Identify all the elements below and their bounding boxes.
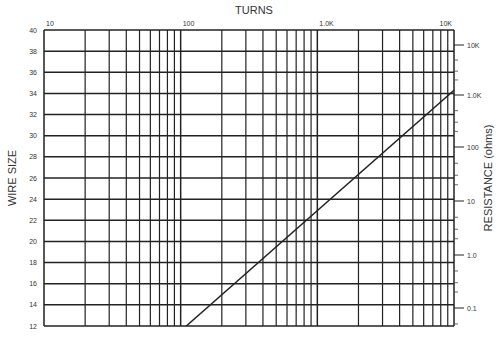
y-tick-label: 28 xyxy=(29,153,37,160)
y-tick-label: 22 xyxy=(29,217,37,224)
y-tick-label: 12 xyxy=(29,323,37,330)
x-tick-labels: 101001.0K10K xyxy=(46,20,452,27)
y2-tick-label: 0.1 xyxy=(467,305,477,312)
right-axis-title: RESISTANCE (ohms) xyxy=(482,125,494,232)
top-axis-title: TURNS xyxy=(235,4,273,16)
grid xyxy=(44,30,454,326)
y-tick-label: 26 xyxy=(29,175,37,182)
y-tick-label: 16 xyxy=(29,280,37,287)
x-tick-label: 10K xyxy=(440,20,453,27)
chart-canvas: TURNS WIRE SIZE RESISTANCE (ohms) 101001… xyxy=(0,0,504,341)
y-tick-label: 38 xyxy=(29,48,37,55)
y-tick-label: 36 xyxy=(29,69,37,76)
x-tick-label: 10 xyxy=(46,20,54,27)
x-tick-label: 100 xyxy=(183,20,195,27)
y2-tick-labels: 10K1.0K100101.00.1 xyxy=(467,42,482,312)
y2-tick-label: 10 xyxy=(467,198,475,205)
left-axis-title: WIRE SIZE xyxy=(6,150,18,206)
x-tick-label: 1.0K xyxy=(319,20,334,27)
y-tick-label: 30 xyxy=(29,132,37,139)
right-axis-ticks xyxy=(454,45,464,324)
y2-tick-label: 10K xyxy=(467,42,480,49)
y-tick-label: 20 xyxy=(29,238,37,245)
y2-tick-label: 100 xyxy=(467,144,479,151)
y2-tick-label: 1.0 xyxy=(467,252,477,259)
y2-tick-label: 1.0K xyxy=(467,92,482,99)
data-line xyxy=(186,90,454,326)
y-tick-label: 14 xyxy=(29,301,37,308)
y-tick-label: 40 xyxy=(29,27,37,34)
y-tick-label: 18 xyxy=(29,259,37,266)
y-tick-label: 32 xyxy=(29,111,37,118)
y-tick-labels: 403836343230282624222018161412 xyxy=(29,27,37,330)
y-tick-label: 24 xyxy=(29,196,37,203)
y-tick-label: 34 xyxy=(29,90,37,97)
